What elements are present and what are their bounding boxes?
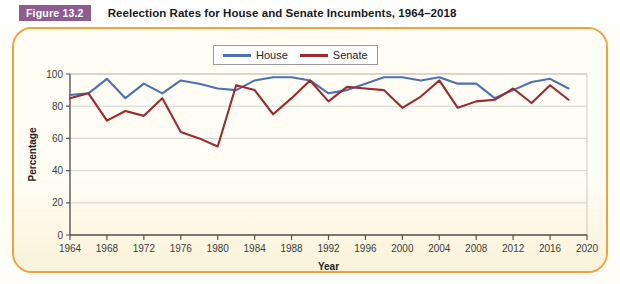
y-tick-label: 100: [46, 69, 63, 80]
y-tick-label: 80: [52, 101, 64, 112]
figure-number-badge: Figure 13.2: [19, 5, 91, 22]
line-chart-svg: 020406080100 196419681972197619801984198…: [14, 29, 608, 273]
x-tick-label: 2012: [502, 243, 525, 254]
legend-swatch-house-icon: [223, 54, 251, 57]
series-line-house: [70, 77, 569, 98]
x-tick-label: 1976: [170, 243, 193, 254]
figure-header: Figure 13.2 Reelection Rates for House a…: [0, 0, 620, 26]
y-tick-label: 40: [52, 165, 64, 176]
y-tick-label: 20: [52, 197, 64, 208]
y-tick-label: 60: [52, 133, 64, 144]
x-tick-label: 1984: [244, 243, 267, 254]
x-tick-label: 2004: [428, 243, 451, 254]
plot-frame: [70, 74, 587, 235]
x-tick-label: 2020: [576, 243, 599, 254]
x-tick-label: 2016: [539, 243, 562, 254]
series-line-senate: [70, 80, 569, 146]
x-tick-label: 1992: [317, 243, 340, 254]
legend-item-house: House: [223, 49, 288, 61]
x-axis-title: Year: [318, 261, 339, 272]
plot-area: 020406080100 196419681972197619801984198…: [14, 29, 608, 273]
chart-legend: House Senate: [213, 45, 378, 65]
x-tick-label: 1968: [96, 243, 119, 254]
x-tick-label: 2000: [391, 243, 414, 254]
x-tick-label: 2008: [465, 243, 488, 254]
legend-label-senate: Senate: [333, 49, 368, 61]
x-tick-label: 1980: [207, 243, 230, 254]
y-tick-label: 0: [57, 230, 63, 241]
y-axis-title: Percentage: [27, 127, 38, 181]
figure-root: Figure 13.2 Reelection Rates for House a…: [0, 0, 620, 284]
legend-item-senate: Senate: [300, 49, 368, 61]
x-tick-label: 1964: [59, 243, 82, 254]
x-tick-label: 1972: [133, 243, 156, 254]
chart-card: 020406080100 196419681972197619801984198…: [12, 27, 608, 273]
legend-label-house: House: [256, 49, 288, 61]
y-axis-ticks: 020406080100: [46, 69, 70, 241]
legend-swatch-senate-icon: [300, 54, 328, 57]
figure-title: Reelection Rates for House and Senate In…: [108, 7, 457, 19]
x-tick-label: 1996: [354, 243, 377, 254]
x-axis-ticks: 1964196819721976198019841988199219962000…: [59, 235, 599, 254]
x-tick-label: 1988: [280, 243, 303, 254]
data-series: [70, 77, 569, 146]
